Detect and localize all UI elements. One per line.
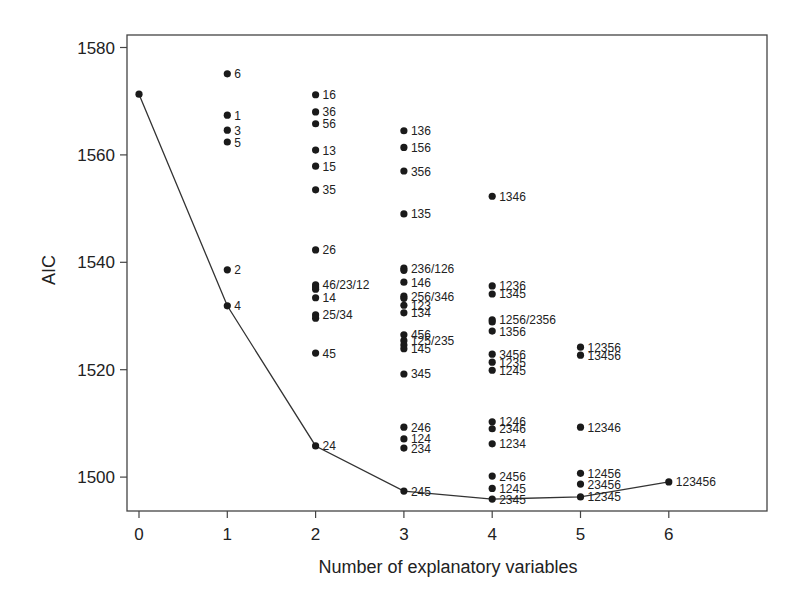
y-tick-label: 1580 (77, 39, 115, 58)
point-label: 1245 (499, 364, 526, 378)
point-label: 146 (411, 276, 431, 290)
point-label: 2346 (499, 422, 526, 436)
point-label: 56 (323, 117, 337, 131)
data-point (312, 315, 319, 322)
data-point (400, 267, 407, 274)
data-point (489, 193, 496, 200)
data-point (312, 186, 319, 193)
data-point (489, 425, 496, 432)
data-point (489, 351, 496, 358)
data-point (489, 327, 496, 334)
data-point (224, 112, 231, 119)
point-label: 24 (323, 439, 337, 453)
point-label: 2 (234, 263, 241, 277)
point-label: 123456 (676, 475, 716, 489)
point-label: 2345 (499, 493, 526, 507)
x-tick-label: 4 (487, 525, 496, 544)
x-tick-label: 2 (311, 525, 320, 544)
data-point (489, 318, 496, 325)
point-label: 12346 (588, 421, 622, 435)
point-label: 135 (411, 207, 431, 221)
x-tick-label: 1 (223, 525, 232, 544)
data-point (400, 370, 407, 377)
data-point (312, 442, 319, 449)
data-point (312, 286, 319, 293)
data-point (577, 424, 584, 431)
data-point (489, 496, 496, 503)
point-label: 1 (234, 109, 241, 123)
point-label: 12345 (588, 490, 622, 504)
point-label: 234 (411, 442, 431, 456)
data-point (312, 91, 319, 98)
data-point (312, 349, 319, 356)
data-point (400, 295, 407, 302)
data-point (400, 127, 407, 134)
point-label: 5 (234, 136, 241, 150)
point-label: 6 (234, 67, 241, 81)
data-point (577, 470, 584, 477)
point-label: 13 (323, 144, 337, 158)
point-label: 16 (323, 88, 337, 102)
data-point (224, 138, 231, 145)
data-point (489, 418, 496, 425)
data-point (224, 127, 231, 134)
data-point (400, 445, 407, 452)
data-point (489, 290, 496, 297)
data-point (400, 144, 407, 151)
data-point (400, 424, 407, 431)
data-point (489, 367, 496, 374)
data-point (489, 485, 496, 492)
y-tick-label: 1560 (77, 146, 115, 165)
data-point (312, 294, 319, 301)
data-point (489, 359, 496, 366)
point-label: 345 (411, 367, 431, 381)
data-point (400, 279, 407, 286)
point-label: 4 (234, 299, 241, 313)
point-label: 35 (323, 183, 337, 197)
data-point (489, 282, 496, 289)
point-label: 15 (323, 160, 337, 174)
point-label: 145 (411, 342, 431, 356)
data-point (577, 352, 584, 359)
x-tick-label: 6 (664, 525, 673, 544)
point-label: 356 (411, 165, 431, 179)
data-point (577, 480, 584, 487)
point-label: 25/34 (323, 308, 353, 322)
data-point (312, 163, 319, 170)
data-point (400, 435, 407, 442)
point-label: 23456 (588, 478, 622, 492)
y-tick-label: 1500 (77, 468, 115, 487)
point-label: 156 (411, 141, 431, 155)
data-point (400, 345, 407, 352)
point-label: 134 (411, 306, 431, 320)
y-tick-label: 1540 (77, 253, 115, 272)
point-label: 14 (323, 291, 337, 305)
data-point (577, 493, 584, 500)
data-point (312, 246, 319, 253)
data-point (400, 302, 407, 309)
data-point (665, 478, 672, 485)
x-tick-label: 3 (399, 525, 408, 544)
y-tick-label: 1520 (77, 361, 115, 380)
point-label: 1345 (499, 287, 526, 301)
point-label: 236/126 (411, 262, 455, 276)
point-label: 45 (323, 347, 337, 361)
point-label: 26 (323, 243, 337, 257)
x-axis-title: Number of explanatory variables (318, 557, 577, 577)
data-point (400, 210, 407, 217)
point-label: 1234 (499, 437, 526, 451)
data-point (224, 70, 231, 77)
data-point (224, 302, 231, 309)
data-point (400, 309, 407, 316)
x-axis: 0123456 (134, 511, 673, 544)
data-points: 6135241636561315352646/23/121425/3445241… (135, 67, 716, 506)
data-point (135, 91, 142, 98)
x-tick-label: 5 (576, 525, 585, 544)
y-axis: 15001520154015601580 (77, 39, 127, 488)
y-axis-title: AIC (39, 255, 59, 285)
data-point (312, 120, 319, 127)
data-point (400, 487, 407, 494)
data-point (312, 146, 319, 153)
x-tick-label: 0 (134, 525, 143, 544)
data-point (489, 440, 496, 447)
